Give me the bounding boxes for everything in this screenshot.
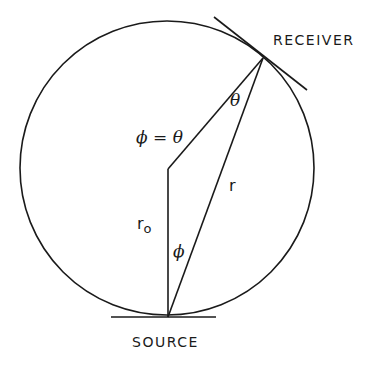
- phi-label: ϕ: [173, 241, 185, 261]
- r-line: [168, 58, 263, 317]
- receiver-label: RECEIVER: [273, 32, 354, 48]
- r-label: r: [229, 176, 236, 195]
- r0-label: ro: [137, 214, 152, 236]
- phi-equals-theta-label: ϕ = θ: [136, 127, 183, 147]
- r0-subscript: o: [144, 221, 152, 236]
- source-label: SOURCE: [132, 334, 199, 350]
- vertex-receiver-line: [168, 58, 263, 169]
- receiver-tangent-line: [214, 17, 307, 90]
- orbit-circle: [20, 21, 314, 315]
- geometry-figure: [0, 0, 385, 365]
- theta-label: θ: [230, 90, 240, 110]
- diagram-canvas: RECEIVER SOURCE ϕ = θ θ r ro ϕ: [0, 0, 385, 365]
- r0-main: r: [137, 214, 144, 233]
